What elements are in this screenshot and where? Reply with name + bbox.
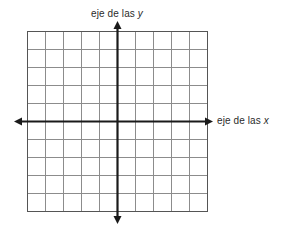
y-axis-variable: y <box>138 8 143 19</box>
x-axis-variable: x <box>264 115 269 126</box>
x-axis-label-text: eje de las <box>217 115 264 126</box>
coordinate-plane-figure: eje de las y eje de las x <box>0 0 284 235</box>
y-axis-arrow-up <box>114 21 122 29</box>
grid-lines <box>27 31 208 212</box>
x-axis-arrow-left <box>14 118 22 126</box>
y-axis-arrow-down <box>114 216 122 224</box>
y-axis-label-text: eje de las <box>91 8 138 19</box>
grid-container <box>27 31 208 212</box>
x-axis-label: eje de las x <box>217 115 269 127</box>
y-axis-label: eje de las y <box>0 8 234 20</box>
